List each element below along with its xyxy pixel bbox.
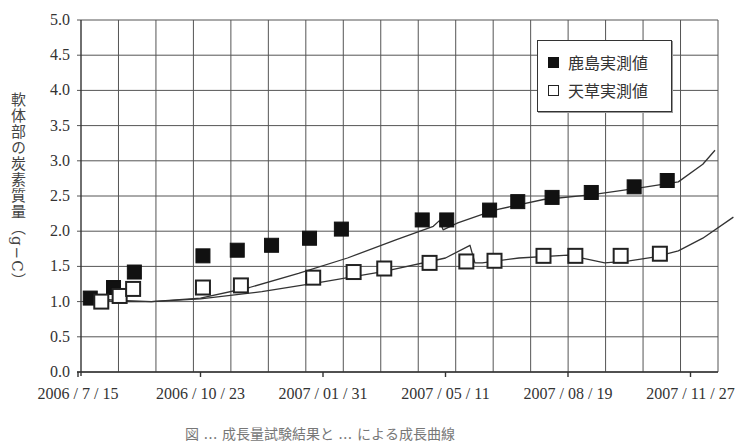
- kashima-point: [334, 222, 348, 236]
- fitted-curve: [90, 150, 715, 301]
- kashima-point: [483, 203, 497, 217]
- x-tick-label: 2007 / 08 / 19: [524, 385, 613, 402]
- kashima-point: [660, 174, 674, 188]
- amakusa-point: [568, 249, 582, 263]
- open-square-icon: [548, 85, 559, 96]
- y-tick-label: 5.0: [50, 11, 70, 28]
- amakusa-point: [459, 254, 473, 268]
- amakusa-point: [614, 249, 628, 263]
- y-tick-label: 3.5: [50, 117, 70, 134]
- y-tick-label: 4.0: [50, 81, 70, 98]
- kashima-point: [196, 249, 210, 263]
- y-axis-label: 軟体部の炭素質量（g−C）: [2, 92, 28, 322]
- y-tick-label: 2.0: [50, 222, 70, 239]
- kashima-point: [303, 231, 317, 245]
- kashima-point: [127, 265, 141, 279]
- fitted-curves: [90, 150, 733, 301]
- y-tick-label: 1.0: [50, 293, 70, 310]
- amakusa-point: [113, 289, 127, 303]
- legend-item-amakusa: 天草実測値: [548, 79, 648, 101]
- amakusa-point: [126, 282, 140, 296]
- y-tick-label: 0.5: [50, 328, 70, 345]
- amakusa-point: [94, 295, 108, 309]
- legend: 鹿島実測値 天草実測値: [537, 40, 672, 112]
- y-tick-label: 3.0: [50, 152, 70, 169]
- x-tick-label: 2006 / 10 / 23: [156, 385, 245, 402]
- amakusa-point: [488, 254, 502, 268]
- legend-label: 天草実測値: [568, 78, 648, 102]
- amakusa-point: [653, 247, 667, 261]
- x-tick-label: 2007 / 01 / 31: [279, 385, 368, 402]
- amakusa-point: [196, 281, 210, 295]
- filled-square-icon: [548, 57, 559, 68]
- y-tick-label: 4.5: [50, 46, 70, 63]
- y-tick-label: 0.0: [50, 363, 70, 380]
- kashima-point: [230, 243, 244, 257]
- fitted-curve: [90, 217, 733, 302]
- y-tick-label: 1.5: [50, 257, 70, 274]
- legend-item-kashima: 鹿島実測値: [548, 51, 648, 73]
- x-tick-label: 2007 / 11 / 27: [646, 385, 734, 402]
- amakusa-point: [306, 271, 320, 285]
- kashima-point: [545, 190, 559, 204]
- figure-caption: 図 … 成長量試験結果と … による成長曲線: [185, 423, 455, 443]
- kashima-point: [584, 185, 598, 199]
- kashima-point: [511, 195, 525, 209]
- kashima-point: [627, 180, 641, 194]
- kashima-point: [440, 213, 454, 227]
- x-tick-label: 2007 / 05 / 11: [401, 385, 489, 402]
- x-tick-label: 2006 / 7 / 15: [38, 385, 119, 402]
- data-points: [83, 174, 674, 309]
- y-tick-label: 2.5: [50, 187, 70, 204]
- kashima-point: [415, 213, 429, 227]
- amakusa-point: [234, 278, 248, 292]
- kashima-point: [265, 238, 279, 252]
- amakusa-point: [347, 265, 361, 279]
- amakusa-point: [423, 256, 437, 270]
- amakusa-point: [537, 249, 551, 263]
- amakusa-point: [377, 262, 391, 276]
- legend-label: 鹿島実測値: [568, 50, 648, 74]
